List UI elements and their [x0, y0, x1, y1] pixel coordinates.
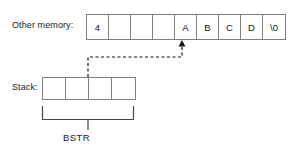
memory-cell-8: \0: [263, 15, 285, 39]
stack-cell-3: [112, 78, 135, 99]
memory-cell-4: A: [175, 15, 197, 39]
other-memory-row: 4 A B C D \0: [86, 14, 286, 40]
memory-cell-2: [131, 15, 153, 39]
bstr-memory-diagram: Other memory: 4 A B C D \0 Stack: BSTR: [0, 0, 296, 154]
stack-cell-2: [89, 78, 112, 99]
memory-cell-1: [109, 15, 131, 39]
stack-label: Stack:: [12, 82, 38, 92]
stack-row: [42, 77, 136, 100]
bstr-label: BSTR: [63, 132, 90, 143]
other-memory-label: Other memory:: [12, 20, 73, 30]
stack-cell-0: [43, 78, 66, 99]
memory-cell-0: 4: [87, 15, 109, 39]
pointer-arrowhead-icon: [179, 40, 186, 47]
memory-cell-3: [153, 15, 175, 39]
pointer-dashed-line: [88, 45, 182, 77]
stack-cell-1: [66, 78, 89, 99]
memory-cell-5: B: [197, 15, 219, 39]
memory-cell-7: D: [241, 15, 263, 39]
memory-cell-6: C: [219, 15, 241, 39]
bstr-bracket: [43, 106, 134, 120]
